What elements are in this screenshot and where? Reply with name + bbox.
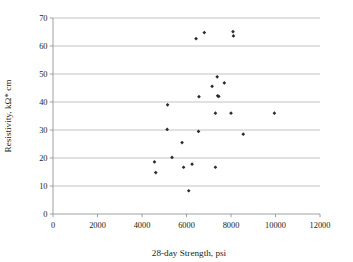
x-axis-tick-labels: 020004000600080001000012000	[51, 221, 331, 230]
data-point-marker	[229, 111, 233, 115]
data-point-marker	[210, 84, 214, 88]
data-point-marker	[215, 75, 219, 79]
data-point-marker	[197, 95, 201, 99]
data-points	[153, 30, 277, 193]
data-point-marker	[232, 34, 236, 38]
data-point-marker	[222, 81, 226, 85]
data-point-marker	[273, 111, 277, 115]
data-point-marker	[241, 132, 245, 136]
data-point-marker	[194, 37, 198, 41]
axes	[53, 18, 320, 214]
y-tick-label: 40	[39, 98, 47, 107]
y-axis-tick-labels: 010203040506070	[39, 14, 47, 219]
x-tick-label: 4000	[134, 221, 151, 230]
data-point-marker	[170, 156, 174, 160]
y-tick-label: 30	[39, 126, 47, 135]
data-point-marker	[182, 165, 186, 169]
chart-canvas: 010203040506070 020004000600080001000012…	[0, 0, 353, 262]
data-point-marker	[190, 162, 194, 166]
data-point-marker	[165, 128, 169, 132]
data-point-marker	[187, 189, 191, 193]
y-axis-title: Resistivity, kΩ* cm	[3, 80, 13, 153]
x-tick-label: 12000	[310, 221, 331, 230]
y-tick-label: 20	[39, 154, 47, 163]
data-point-marker	[231, 30, 235, 34]
y-tick-label: 50	[39, 70, 47, 79]
y-tick-label: 70	[39, 14, 47, 23]
data-point-marker	[153, 160, 157, 164]
y-tick-label: 0	[43, 210, 47, 219]
y-tick-label: 60	[39, 42, 47, 51]
x-axis-title: 28-day Strength, psi	[152, 248, 227, 258]
x-tick-label: 10000	[265, 221, 286, 230]
x-tick-label: 6000	[178, 221, 195, 230]
gridlines	[53, 18, 320, 186]
data-point-marker	[214, 165, 218, 169]
y-tick-label: 10	[39, 182, 47, 191]
x-tick-label: 2000	[89, 221, 106, 230]
x-tick-label: 8000	[223, 221, 240, 230]
data-point-marker	[154, 171, 158, 175]
x-tick-label: 0	[51, 221, 55, 230]
data-point-marker	[180, 141, 184, 145]
data-point-marker	[214, 111, 218, 115]
data-point-marker	[202, 31, 206, 35]
scatter-plot-figure: 010203040506070 020004000600080001000012…	[0, 0, 353, 262]
data-point-marker	[166, 103, 170, 107]
tick-marks	[50, 18, 320, 217]
